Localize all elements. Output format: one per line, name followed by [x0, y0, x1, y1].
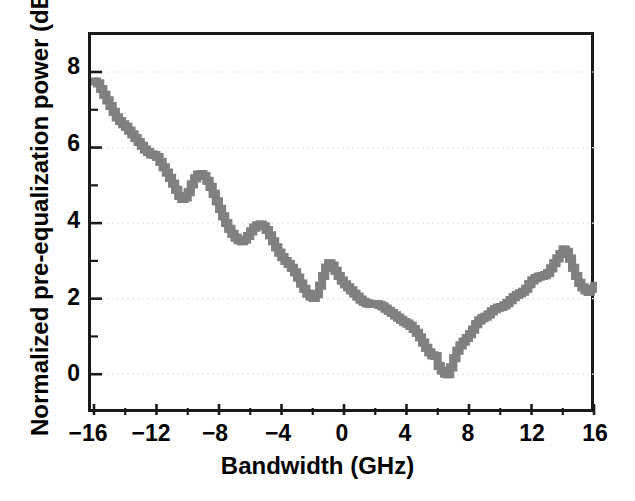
series-marker — [446, 363, 454, 371]
plot-svg — [91, 35, 597, 415]
x-tick-label-16: 16 — [565, 422, 625, 445]
gridlines — [92, 72, 596, 374]
series-marker — [209, 190, 217, 198]
series-path — [94, 81, 594, 374]
series-marker — [215, 205, 223, 213]
x-tick-label-minus16: −16 — [58, 422, 118, 445]
x-tick-label-12: 12 — [502, 422, 562, 445]
x-tick-label-4: 4 — [375, 422, 435, 445]
series-marker — [312, 290, 320, 298]
data-series-trace — [91, 77, 597, 378]
plot-area — [88, 32, 594, 412]
series-marker — [184, 188, 192, 196]
y-axis-title: Normalized pre-equalization power (dB) — [26, 16, 54, 436]
x-tick-label-minus12: −12 — [121, 422, 181, 445]
series-marker — [315, 282, 323, 290]
x-tick-label-minus4: −4 — [248, 422, 308, 445]
series-marker — [318, 272, 326, 280]
series-marker — [212, 197, 220, 205]
x-tick-label-8: 8 — [438, 422, 498, 445]
series-marker — [449, 354, 457, 362]
series-marker — [571, 272, 579, 280]
series-marker — [431, 352, 439, 360]
x-tick-label-0: 0 — [312, 422, 372, 445]
series-marker — [590, 282, 597, 290]
series-marker — [568, 264, 576, 272]
figure-container: 8 6 4 2 0 −16 −12 −8 −4 0 4 8 12 16 Band… — [0, 0, 635, 501]
axis-ticks — [91, 72, 594, 415]
x-axis-title: Bandwidth (GHz) — [0, 452, 635, 480]
series-marker — [565, 255, 573, 263]
x-tick-label-minus8: −8 — [185, 422, 245, 445]
